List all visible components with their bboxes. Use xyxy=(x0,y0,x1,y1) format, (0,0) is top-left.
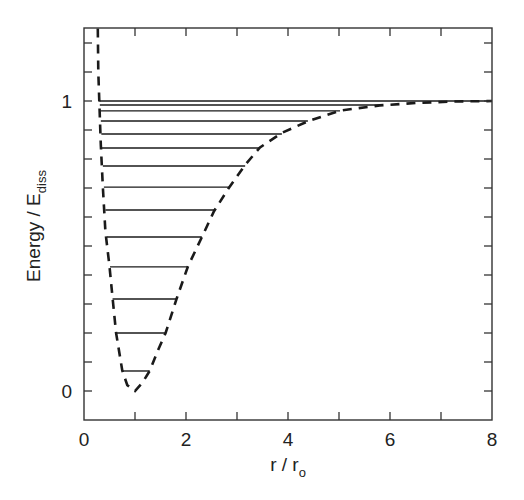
x-tick-label: 6 xyxy=(385,429,396,450)
x-tick-label: 8 xyxy=(487,429,498,450)
energy-levels xyxy=(99,101,492,371)
chart: 0246801 r / ro Energy / Ediss xyxy=(0,0,524,500)
x-axis-label: r / ro xyxy=(270,454,306,480)
y-tick-label: 1 xyxy=(61,91,72,112)
axis-tick-labels: 0246801 xyxy=(61,91,497,450)
axis-ticks xyxy=(84,28,492,420)
x-tick-label: 0 xyxy=(79,429,90,450)
x-tick-label: 4 xyxy=(283,429,294,450)
y-tick-label: 0 xyxy=(61,381,72,402)
x-tick-label: 2 xyxy=(181,429,192,450)
plot-frame xyxy=(84,28,492,420)
y-axis-label: Energy / Ediss xyxy=(23,170,49,282)
